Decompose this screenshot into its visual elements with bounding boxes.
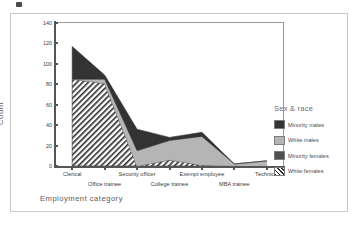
y-axis-tick-label: 20 — [2, 143, 52, 149]
legend-item-label: White males — [288, 137, 319, 143]
y-axis-tick-label: 80 — [2, 81, 52, 87]
x-axis-tick-mark — [136, 167, 138, 170]
legend-item[interactable]: Minority females — [274, 149, 348, 162]
y-axis-tick-label: 40 — [2, 122, 52, 128]
y-axis-title: Count — [0, 102, 5, 125]
x-axis-tick-label: Office trainee — [88, 181, 121, 187]
legend-item[interactable]: Minority males — [274, 118, 348, 131]
legend: Sex & race Minority malesWhite malesMino… — [274, 104, 348, 180]
x-axis-tick-mark — [71, 167, 73, 170]
dark-solid-swatch — [274, 120, 285, 129]
x-axis-tick-label: College trainee — [151, 181, 189, 187]
y-axis-tick-label: 140 — [2, 20, 52, 26]
legend-item[interactable]: White males — [274, 134, 348, 147]
y-axis-tick-label: 0 — [2, 163, 52, 169]
y-axis-tick-mark — [55, 63, 58, 65]
y-axis-tick-mark — [55, 22, 58, 24]
legend-item[interactable]: White females — [274, 165, 348, 178]
y-axis-tick-label: 120 — [2, 40, 52, 46]
y-axis-tick-mark — [55, 42, 58, 44]
x-axis-tick-mark — [233, 167, 235, 170]
x-axis-tick-label: Exempt employee — [180, 171, 225, 177]
y-axis-tick-label: 60 — [2, 102, 52, 108]
x-axis-tick-mark — [266, 167, 268, 170]
y-axis-tick-label: 100 — [2, 61, 52, 67]
light-gray-solid-swatch — [274, 136, 285, 145]
x-axis-tick-mark — [201, 167, 203, 170]
x-axis-tick-mark — [169, 167, 171, 170]
y-axis-tick-mark — [55, 83, 58, 85]
y-axis-labels: 140120100806040200 — [0, 0, 52, 190]
y-axis-tick-mark — [55, 124, 58, 126]
x-axis-tick-label: Security officer — [119, 171, 156, 177]
x-axis-tick-label: Clerical — [63, 171, 82, 177]
legend-item-label: Minority males — [288, 122, 324, 128]
plot-area — [55, 22, 284, 167]
legend-title: Sex & race — [274, 104, 348, 113]
legend-item-label: Minority females — [288, 153, 329, 159]
y-axis-tick-mark — [55, 104, 58, 106]
plot-inner — [56, 23, 283, 166]
x-axis-tick-mark — [104, 167, 106, 170]
y-axis-tick-mark — [55, 165, 58, 167]
chart-page: 140120100806040200 Count ClericalOffice … — [0, 0, 359, 227]
medium-gray-solid-swatch — [274, 151, 285, 160]
legend-item-label: White females — [288, 168, 323, 174]
diagonal-hatch-swatch — [274, 167, 285, 176]
x-axis-tick-label: MBA trainee — [219, 181, 249, 187]
stacked-area-svg — [56, 23, 283, 166]
y-axis-tick-mark — [55, 145, 58, 147]
x-axis-title: Employment category — [40, 194, 123, 203]
legend-items: Minority malesWhite malesMinority female… — [274, 118, 348, 178]
